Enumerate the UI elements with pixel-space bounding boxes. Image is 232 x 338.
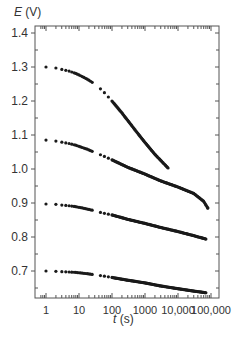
x-tick-label: 10 <box>73 304 85 316</box>
series-1 <box>44 65 169 169</box>
data-point <box>44 65 47 68</box>
data-point <box>91 273 94 276</box>
data-point <box>44 202 47 205</box>
y-tick-label: 1.0 <box>11 162 28 176</box>
data-point <box>91 150 94 153</box>
data-point <box>103 155 106 158</box>
scatter-chart: 0.70.80.91.01.11.21.31.4110100100010,000… <box>0 0 232 338</box>
x-tick-label: 100,000 <box>191 304 231 316</box>
y-tick-label: 0.7 <box>11 264 28 278</box>
y-tick-label: 0.8 <box>11 230 28 244</box>
data-point <box>60 141 63 144</box>
data-point <box>107 157 110 160</box>
data-point <box>64 204 67 207</box>
x-tick-label: 10,000 <box>161 304 195 316</box>
data-point <box>204 237 207 240</box>
x-tick-label: 1000 <box>133 304 157 316</box>
data-point <box>64 270 67 273</box>
data-point <box>107 275 110 278</box>
data-point <box>54 270 57 273</box>
data-point <box>103 275 106 278</box>
data-point <box>60 203 63 206</box>
y-tick-label: 1.3 <box>11 60 28 74</box>
series-3 <box>44 202 207 240</box>
data-point <box>64 69 67 72</box>
data-point <box>107 213 110 216</box>
data-point <box>64 141 67 144</box>
y-tick-label: 1.4 <box>11 26 28 40</box>
y-tick-label: 1.2 <box>11 94 28 108</box>
y-tick-label: 0.9 <box>11 196 28 210</box>
data-point <box>107 95 110 98</box>
data-point <box>99 87 102 90</box>
data-point <box>60 68 63 71</box>
y-tick-label: 1.1 <box>11 128 28 142</box>
data-point <box>99 153 102 156</box>
data-point <box>103 212 106 215</box>
data-point <box>204 291 207 294</box>
data-point <box>91 209 94 212</box>
data-point <box>54 203 57 206</box>
data-point <box>103 91 106 94</box>
data-point <box>44 139 47 142</box>
data-point <box>166 166 169 169</box>
data-point <box>206 207 209 210</box>
data-point <box>99 274 102 277</box>
series-4 <box>44 269 207 294</box>
series-2 <box>44 139 209 210</box>
data-point <box>54 140 57 143</box>
plot-frame <box>35 26 219 298</box>
data-point <box>60 270 63 273</box>
data-point <box>99 211 102 214</box>
data-point <box>44 269 47 272</box>
x-tick-label: 100 <box>103 304 121 316</box>
data-point <box>54 66 57 69</box>
data-point <box>91 81 94 84</box>
x-tick-label: 1 <box>43 304 49 316</box>
